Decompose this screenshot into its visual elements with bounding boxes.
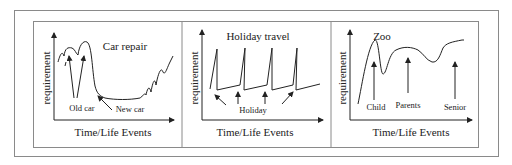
- annotation-arrow: [69, 56, 74, 98]
- annotation-arrow: [77, 56, 84, 98]
- panel-title: Car repair: [103, 40, 148, 52]
- x-axis-label: Time/Life Events: [217, 126, 294, 138]
- annotation-child: Child: [367, 102, 387, 112]
- annotation-arrow: [215, 95, 226, 105]
- annotation-new-car: New car: [116, 104, 145, 114]
- annotation-senior: Senior: [444, 102, 466, 112]
- annotation-arrow: [65, 62, 66, 66]
- panel-zoo: requirement Time/Life Events Zoo Child P…: [336, 30, 472, 138]
- y-axis-label: requirement: [336, 51, 348, 104]
- annotation-old-car: Old car: [69, 103, 94, 113]
- panel-car-repair: requirement Time/Life Events Car repair …: [40, 33, 174, 138]
- y-axis-label: requirement: [40, 51, 52, 104]
- panel-holiday-travel: requirement Time/Life Events Holiday tra…: [188, 30, 323, 138]
- panel-title: Holiday travel: [226, 30, 289, 42]
- x-axis-label: Time/Life Events: [75, 126, 152, 138]
- figure-canvas: requirement Time/Life Events Car repair …: [0, 0, 512, 165]
- annotation-holiday: Holiday: [239, 105, 267, 115]
- annotation-parents: Parents: [395, 100, 420, 110]
- requirement-curve: [210, 48, 320, 90]
- annotation-arrow: [282, 92, 293, 104]
- x-axis-label: Time/Life Events: [373, 126, 450, 138]
- y-axis-label: requirement: [188, 51, 200, 104]
